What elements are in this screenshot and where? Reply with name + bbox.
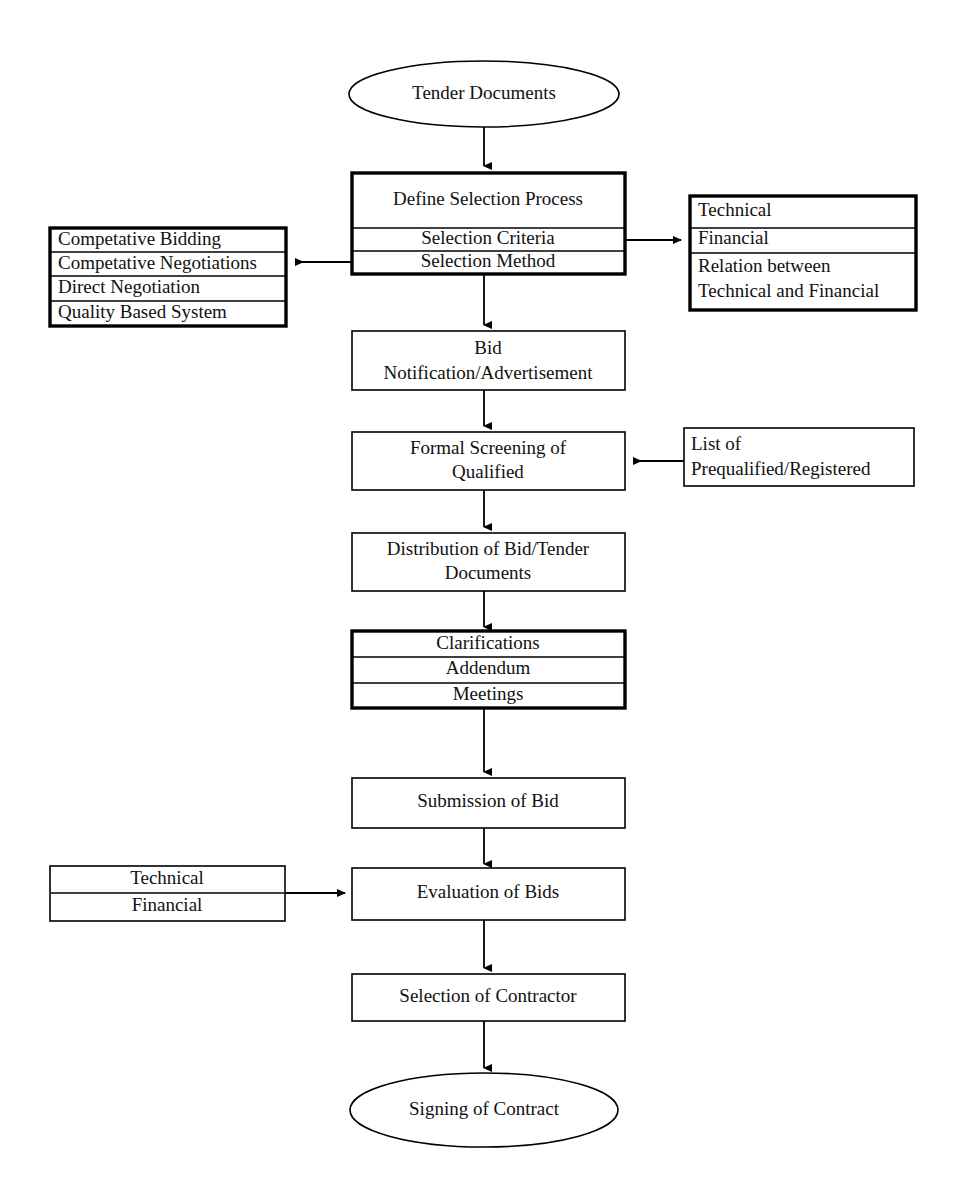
evaluation-inputs-row-0: Technical bbox=[130, 867, 204, 888]
selection-methods-row-2: Direct Negotiation bbox=[58, 276, 200, 297]
distribution-line-1: Documents bbox=[445, 562, 532, 583]
formal-screening-line-0: Formal Screening of bbox=[410, 437, 567, 458]
node-tender-documents-label: Tender Documents bbox=[412, 82, 556, 103]
bid-notification-line-1: Notification/Advertisement bbox=[384, 362, 594, 383]
evaluation-of-bids-label: Evaluation of Bids bbox=[417, 881, 559, 902]
selection-criteria-row-0: Technical bbox=[698, 199, 772, 220]
submission-of-bid-label: Submission of Bid bbox=[417, 790, 559, 811]
selection-methods-row-0: Competative Bidding bbox=[58, 228, 222, 249]
node-prequalified-list: List of Prequalified/Registered bbox=[684, 428, 914, 486]
define-selection-row-2: Selection Method bbox=[421, 250, 556, 271]
define-selection-row-0: Define Selection Process bbox=[393, 188, 583, 209]
selection-methods-row-1: Competative Negotiations bbox=[58, 252, 257, 273]
node-selection-methods: Competative Bidding Competative Negotiat… bbox=[50, 228, 286, 326]
selection-methods-row-3: Quality Based System bbox=[58, 301, 227, 322]
selection-of-contractor-label: Selection of Contractor bbox=[399, 985, 577, 1006]
clarifications-row-1: Addendum bbox=[446, 657, 531, 678]
node-signing-of-contract-label: Signing of Contract bbox=[409, 1098, 560, 1119]
clarifications-row-2: Meetings bbox=[453, 683, 524, 704]
selection-criteria-row-2-line-1: Technical and Financial bbox=[698, 280, 879, 301]
node-tender-documents: Tender Documents bbox=[349, 61, 619, 127]
node-submission-of-bid: Submission of Bid bbox=[352, 778, 625, 828]
clarifications-row-0: Clarifications bbox=[436, 632, 539, 653]
formal-screening-line-1: Qualified bbox=[452, 461, 524, 482]
node-evaluation-inputs: Technical Financial bbox=[50, 866, 285, 921]
node-signing-of-contract: Signing of Contract bbox=[350, 1073, 618, 1147]
node-clarifications: Clarifications Addendum Meetings bbox=[352, 631, 625, 708]
prequalified-list-line-1: Prequalified/Registered bbox=[691, 458, 871, 479]
node-define-selection-process: Define Selection Process Selection Crite… bbox=[352, 173, 625, 274]
selection-criteria-row-2-line-0: Relation between bbox=[698, 255, 831, 276]
node-formal-screening: Formal Screening of Qualified bbox=[352, 432, 625, 490]
prequalified-list-line-0: List of bbox=[691, 433, 742, 454]
distribution-line-0: Distribution of Bid/Tender bbox=[387, 538, 590, 559]
node-evaluation-of-bids: Evaluation of Bids bbox=[352, 868, 625, 920]
selection-criteria-row-1: Financial bbox=[698, 227, 769, 248]
flowchart-diagram: Tender Documents Define Selection Proces… bbox=[0, 0, 961, 1192]
define-selection-row-1: Selection Criteria bbox=[421, 227, 555, 248]
node-selection-of-contractor: Selection of Contractor bbox=[352, 974, 625, 1021]
bid-notification-line-0: Bid bbox=[474, 337, 502, 358]
node-distribution: Distribution of Bid/Tender Documents bbox=[352, 533, 625, 591]
node-selection-criteria: Technical Financial Relation between Tec… bbox=[690, 196, 916, 310]
node-bid-notification: Bid Notification/Advertisement bbox=[352, 331, 625, 390]
evaluation-inputs-row-1: Financial bbox=[132, 894, 203, 915]
